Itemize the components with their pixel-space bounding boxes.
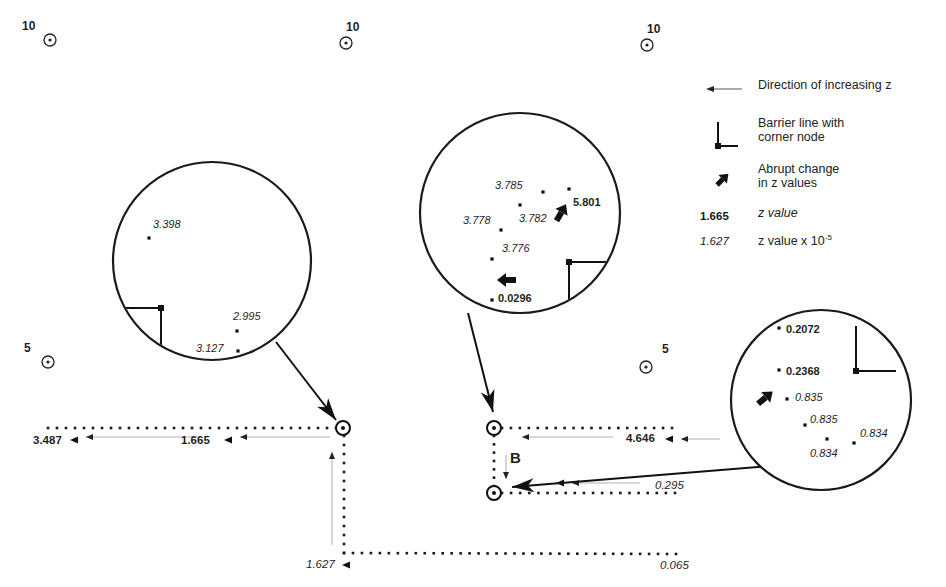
magnifier-right: 0.20720.23680.8350.8350.8340.834 [511,310,911,494]
path-left-vertical [343,435,346,555]
grid-marker-label: 10 [22,19,36,33]
legend-label: Direction of increasing z [758,78,891,92]
node-b-top [487,421,501,435]
leader-arrowhead-icon [317,398,342,424]
legend-item-barrier: Barrier line with corner node [700,116,844,152]
italic-value-sample: 1.627 [700,231,758,249]
data-point-label: 0.835 [795,391,823,403]
grid-marker-5: 5 [640,342,669,373]
legend-item-direction: Direction of increasing z [700,78,891,100]
data-point [499,228,502,231]
data-point [852,441,855,444]
corner-node [566,259,572,265]
z-value-label: 1.627 [306,558,335,570]
magnifier-middle: 3.7855.8013.7823.7783.7760.0296 [420,113,620,414]
data-point [541,190,544,193]
data-point [777,326,780,329]
segment-label-b: B [510,449,521,466]
grid-marker-label: 5 [24,341,31,355]
data-point [825,437,828,440]
grid-marker-label: 10 [647,22,661,36]
z-value-label: 0.065 [660,559,689,571]
arrow-left-icon [700,78,758,100]
node-b-bottom [487,486,501,500]
data-point-label: 0.834 [860,427,888,439]
legend-item-z-value: 1.665 z value [700,206,798,224]
direction-arrow [240,434,330,440]
magnifier-left: 3.3982.9953.127 [113,162,342,424]
grid-marker-10: 10 [340,20,360,49]
grid-marker-label: 10 [346,20,360,34]
path-left-horizontal [47,427,338,430]
data-point [785,397,788,400]
direction-arrow [522,434,613,440]
grid-marker-5: 5 [24,341,54,368]
data-point-label: 2.995 [232,310,261,322]
z-value-label: 3.487 [33,434,62,446]
legend-label: Abrupt change in z values [758,162,839,190]
arrowhead-icon [342,562,350,569]
path-b-top-horizontal [501,427,674,430]
corner-node-left [336,421,350,435]
legend-item-z-value-scaled: 1.627 z value x 10-5 [700,231,832,249]
data-point-label: 0.834 [810,447,838,459]
path-bottom-horizontal [343,552,678,556]
path-b-bottom-horizontal [501,492,677,495]
direction-arrow [681,436,720,442]
data-point-label: 3.782 [519,212,547,224]
data-point [490,298,493,301]
grid-marker-label: 5 [662,342,669,356]
data-point-label: 5.801 [573,196,601,208]
grid-marker-10: 10 [641,22,661,51]
grid-marker-10: 10 [22,19,56,46]
data-point [803,423,806,426]
corner-node [158,305,164,311]
data-point [567,187,570,190]
barrier-corner-icon [700,116,758,152]
data-point-label: 3.778 [463,214,491,226]
data-point-label: 0.2368 [786,365,820,377]
data-point-label: 3.776 [502,242,530,254]
direction-arrow [503,455,509,479]
z-value-label: 4.646 [626,432,655,444]
data-point [518,203,521,206]
direction-arrow [329,452,335,545]
data-point-label: 0.835 [810,413,838,425]
data-point-label: 0.0296 [498,292,532,304]
data-point-label: 3.127 [196,342,224,354]
bold-value-sample: 1.665 [700,206,758,224]
z-value-label: 0.295 [655,479,684,491]
data-point [235,329,238,332]
path-b-connector [493,435,496,488]
corner-node [853,368,859,374]
data-point [147,236,150,239]
data-point-label: 3.398 [153,218,181,230]
leader-arrowhead-icon [481,389,500,414]
arrowhead-icon [70,437,78,444]
legend-item-abrupt: Abrupt change in z values [700,162,839,194]
arrowhead-icon [224,437,232,444]
legend-label: z value [758,206,798,220]
data-point [777,368,780,371]
magnifier-circle [113,162,311,360]
data-point [236,349,239,352]
data-point [490,257,493,260]
data-point-label: 0.2072 [786,323,820,335]
z-value-label: 1.665 [181,434,210,446]
legend-label: Barrier line with corner node [758,116,844,144]
arrowhead-icon [665,436,673,443]
data-point-label: 3.785 [495,179,523,191]
legend-label: z value x 10-5 [758,231,832,248]
abrupt-change-arrow-icon [700,162,758,194]
